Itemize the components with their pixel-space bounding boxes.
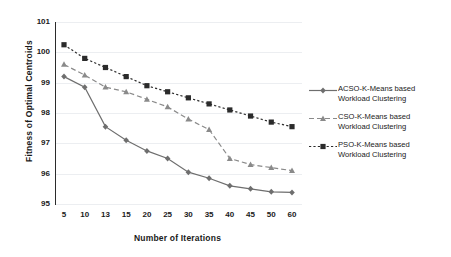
- series-diamond: [61, 74, 295, 196]
- legend-label-acso: ACSO-K-Means based Workload Clustering: [338, 84, 415, 103]
- y-tick-label: 99: [24, 78, 50, 87]
- y-axis-tick-labels: 1011009998979695: [22, 0, 50, 257]
- legend-label-pso: PSO-K-Means based Workload Clustering: [338, 140, 410, 159]
- plot-area: [56, 22, 302, 204]
- data-point-marker: [206, 175, 212, 181]
- data-point-marker: [102, 84, 108, 90]
- data-point-marker: [144, 83, 149, 88]
- y-tick-label: 101: [24, 17, 50, 26]
- data-point-marker: [320, 144, 325, 149]
- x-tick-label: 60: [280, 210, 304, 219]
- y-tick-label: 98: [24, 108, 50, 117]
- legend-item[interactable]: ACSO-K-Means based Workload Clustering: [308, 84, 448, 103]
- gridline: [56, 204, 302, 205]
- legend-label-line2: Workload Clustering: [338, 150, 410, 160]
- data-point-marker: [186, 95, 191, 100]
- series-square: [61, 42, 294, 129]
- y-tick-label: 95: [24, 199, 50, 208]
- data-point-marker: [61, 42, 66, 47]
- legend-key-pso: [308, 141, 338, 152]
- data-point-marker: [123, 137, 129, 143]
- x-axis-tick-labels: 51013152025303540455060: [56, 206, 302, 220]
- data-point-marker: [165, 89, 170, 94]
- y-tick-label: 100: [24, 47, 50, 56]
- chart-legend: ACSO-K-Means based Workload Clustering C…: [308, 84, 448, 169]
- data-point-marker: [124, 74, 129, 79]
- y-tick-label: 96: [24, 169, 50, 178]
- data-point-marker: [289, 124, 294, 129]
- data-point-marker: [248, 186, 254, 192]
- data-point-marker: [227, 183, 233, 189]
- data-point-marker: [61, 61, 67, 67]
- legend-item[interactable]: CSO-K-Means based Workload Clustering: [308, 112, 448, 131]
- series-line: [64, 45, 292, 127]
- legend-label-line2: Workload Clustering: [338, 94, 415, 104]
- data-point-marker: [61, 74, 67, 80]
- data-point-marker: [289, 189, 295, 195]
- data-point-marker: [248, 161, 254, 167]
- x-axis-title: Number of Iterations: [55, 233, 300, 243]
- data-point-marker: [82, 56, 87, 61]
- data-point-marker: [185, 116, 191, 122]
- series-line: [64, 77, 292, 193]
- legend-key-cso: [308, 113, 338, 124]
- data-point-marker: [268, 189, 274, 195]
- data-point-marker: [206, 127, 212, 133]
- data-point-marker: [206, 101, 211, 106]
- data-point-marker: [165, 104, 171, 110]
- data-point-marker: [269, 120, 274, 125]
- legend-label-line2: Workload Clustering: [338, 122, 410, 132]
- data-point-marker: [82, 72, 88, 78]
- data-point-marker: [82, 84, 88, 90]
- data-point-marker: [227, 107, 232, 112]
- data-point-marker: [320, 88, 326, 94]
- legend-label-line1: CSO-K-Means based: [338, 112, 410, 122]
- legend-label-line1: PSO-K-Means based: [338, 140, 410, 150]
- data-point-marker: [103, 124, 109, 130]
- legend-key-acso: [308, 85, 338, 96]
- y-tick-label: 97: [24, 138, 50, 147]
- series-triangle: [61, 61, 295, 173]
- legend-label-line1: ACSO-K-Means based: [338, 84, 415, 94]
- series-layer: [56, 22, 302, 204]
- legend-label-cso: CSO-K-Means based Workload Clustering: [338, 112, 410, 131]
- data-point-marker: [144, 148, 150, 154]
- legend-item[interactable]: PSO-K-Means based Workload Clustering: [308, 140, 448, 159]
- data-point-marker: [248, 113, 253, 118]
- data-point-marker: [103, 65, 108, 70]
- chart-figure: Fitness of Optimal Centroids 10110099989…: [0, 0, 451, 257]
- data-point-marker: [186, 169, 192, 175]
- data-point-marker: [165, 156, 171, 162]
